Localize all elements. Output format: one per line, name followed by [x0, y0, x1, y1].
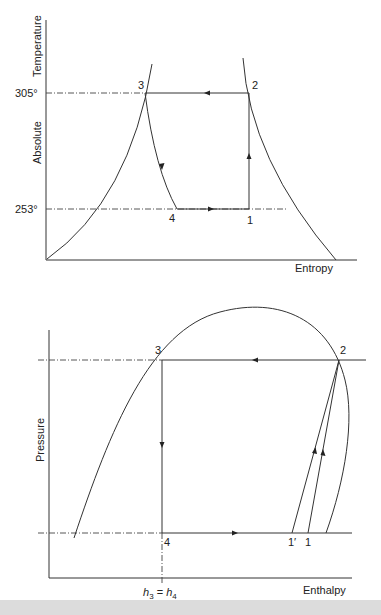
ts-tick-253: 253° [15, 203, 38, 215]
ts-y-label-bottom: Absolute [31, 121, 43, 164]
ph-x-label: Enthalpy [303, 584, 346, 596]
ts-arrow-4-1-icon [208, 207, 214, 212]
ph-h3-eq-h4-label: h3 = h4 [143, 586, 177, 601]
ph-arrow-4-1-icon [232, 531, 238, 536]
ph-diagram: 3 2 4 1′ 1 Enthalpy Pressure h3 = h4 [34, 307, 366, 601]
ts-arrow-1-2-icon [247, 153, 252, 159]
ph-point-1: 1 [305, 536, 311, 548]
ph-y-label: Pressure [34, 418, 46, 462]
ts-arrow-2-3-icon [204, 91, 210, 96]
ts-point-3: 3 [138, 79, 144, 91]
ph-point-4: 4 [164, 536, 170, 548]
ts-point-2: 2 [252, 79, 258, 91]
ph-arrow-2-3-icon [252, 358, 258, 363]
ph-arrow-1prime-2-icon [312, 447, 317, 454]
ts-tick-305: 305° [15, 87, 38, 99]
ts-process-3-4 [145, 93, 177, 209]
ph-saturation-dome [74, 307, 349, 538]
ts-y-label-top: Temperature [31, 15, 43, 77]
ts-point-4: 4 [169, 212, 175, 224]
ts-x-label: Entropy [295, 262, 333, 274]
ph-point-1prime: 1′ [288, 536, 296, 548]
ts-point-1: 1 [247, 214, 253, 226]
ph-arrow-3-4-icon [160, 442, 165, 448]
cycle-diagrams: 3 2 1 4 305° 253° Entropy Temperature Ab… [0, 0, 381, 615]
ts-diagram: 3 2 1 4 305° 253° Entropy Temperature Ab… [15, 15, 357, 274]
ph-point-2: 2 [340, 344, 346, 356]
ph-point-3: 3 [155, 344, 161, 356]
bottom-gray-strip [0, 600, 381, 615]
ph-arrow-1-2-icon [321, 449, 326, 456]
ph-process-1prime-2 [292, 360, 339, 533]
